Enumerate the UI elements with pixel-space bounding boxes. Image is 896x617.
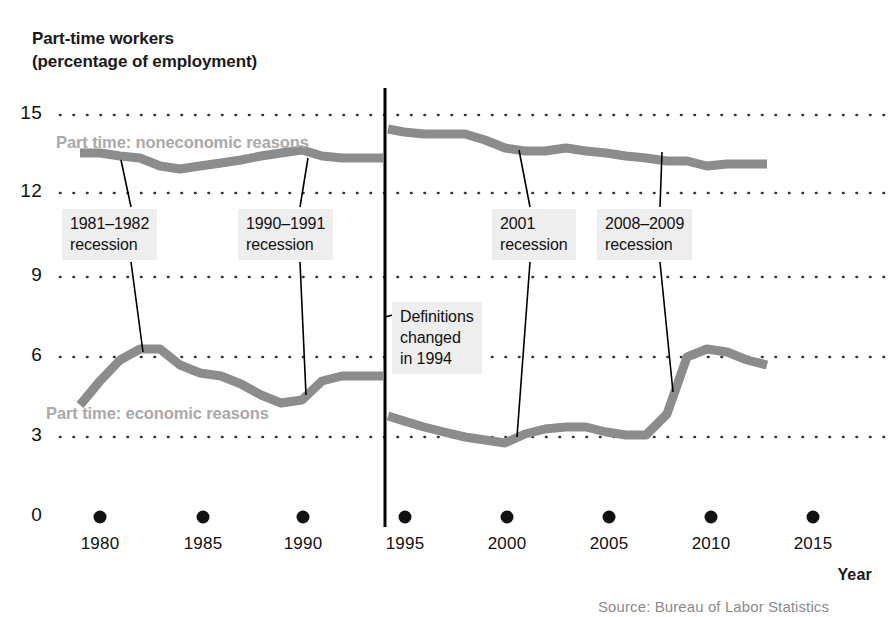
x-marker-1990: [297, 511, 310, 524]
annotation-recession-1990-1991-line1: 1990–1991: [246, 213, 325, 234]
x-marker-1985: [197, 511, 210, 524]
series-label-economic: Part time: economic reasons: [46, 404, 269, 423]
series-line-noneconomic-post1994: [388, 129, 767, 166]
annotation-definitions-changed: Definitions changed in 1994: [392, 302, 482, 374]
x-tick-label-2015: 2015: [778, 534, 848, 554]
x-tick-label-1990: 1990: [268, 534, 338, 554]
annotation-definitions-line3: in 1994: [400, 348, 474, 369]
leader-2008-down: [660, 262, 673, 392]
x-tick-label-1995: 1995: [370, 534, 440, 554]
x-tick-label-1980: 1980: [65, 534, 135, 554]
annotation-recession-2001-line1: 2001: [500, 213, 568, 234]
x-axis-label: Year: [837, 566, 872, 584]
chart-figure: Part-time workers (percentage of employm…: [0, 0, 896, 617]
series-label-noneconomic: Part time: noneconomic reasons: [56, 133, 309, 152]
x-marker-2005: [603, 511, 616, 524]
leader-1981-down: [131, 262, 143, 352]
annotation-recession-1981-1982: 1981–1982 recession: [62, 209, 157, 260]
annotation-recession-1981-1982-line1: 1981–1982: [70, 213, 149, 234]
y-tick-label-3: 3: [8, 424, 42, 446]
annotation-recession-2008-2009-line1: 2008–2009: [605, 213, 684, 234]
x-marker-1995: [399, 511, 412, 524]
annotation-recession-1990-1991: 1990–1991 recession: [238, 209, 333, 260]
y-tick-label-12: 12: [8, 180, 42, 202]
x-marker-1980: [94, 511, 107, 524]
annotation-recession-2008-2009: 2008–2009 recession: [597, 209, 692, 260]
annotation-recession-2001-line2: recession: [500, 234, 568, 255]
annotation-recession-2001: 2001 recession: [492, 209, 576, 260]
x-marker-2000: [501, 511, 514, 524]
x-marker-2010: [705, 511, 718, 524]
x-tick-label-1985: 1985: [168, 534, 238, 554]
x-marker-2015: [807, 511, 820, 524]
x-tick-label-2000: 2000: [472, 534, 542, 554]
series-line-noneconomic-pre1994: [80, 150, 383, 169]
leader-1990-up: [300, 158, 308, 207]
annotation-definitions-line2: changed: [400, 327, 474, 348]
leader-2001-down: [517, 262, 530, 437]
annotation-recession-1981-1982-line2: recession: [70, 234, 149, 255]
source-note: Source: Bureau of Labor Statistics: [598, 598, 829, 615]
y-tick-label-15: 15: [8, 102, 42, 124]
leader-1990-down: [300, 262, 306, 395]
leader-2001-up: [519, 150, 530, 207]
y-tick-label-0: 0: [8, 504, 42, 526]
x-axis-markers: [94, 511, 820, 524]
leader-1981-up: [121, 160, 131, 207]
x-tick-label-2010: 2010: [676, 534, 746, 554]
series-line-economic-pre1994: [80, 349, 383, 405]
annotation-definitions-line1: Definitions: [400, 306, 474, 327]
annotation-recession-2008-2009-line2: recession: [605, 234, 684, 255]
x-tick-label-2005: 2005: [574, 534, 644, 554]
y-tick-label-6: 6: [8, 344, 42, 366]
annotation-recession-1990-1991-line2: recession: [246, 234, 325, 255]
y-tick-label-9: 9: [8, 264, 42, 286]
